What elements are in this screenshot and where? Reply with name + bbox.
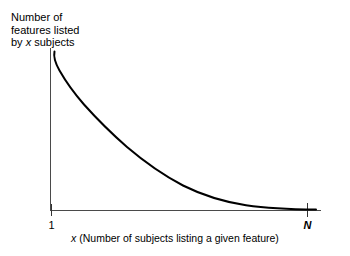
x-axis-label: x (Number of subjects listing a given fe… [0,232,350,244]
x-tick-label-first: 1 [48,219,54,231]
y-axis-label-line-3-prefix: by [11,36,26,48]
y-axis-label-line-1: Number of [11,11,79,24]
x-axis-label-text: (Number of subjects listing a given feat… [76,232,279,244]
y-axis-label-line-2: features listed [11,24,79,37]
x-tick-label-last: N [304,219,313,231]
y-axis-label: Number of features listed by x subjects [11,11,79,49]
chart-figure: 1 N Number of features listed by x subje… [0,0,350,256]
y-axis-label-line-3: by x subjects [11,36,79,49]
y-axis-label-line-3-suffix: subjects [31,36,74,48]
frequency-decay-curve [54,52,316,210]
